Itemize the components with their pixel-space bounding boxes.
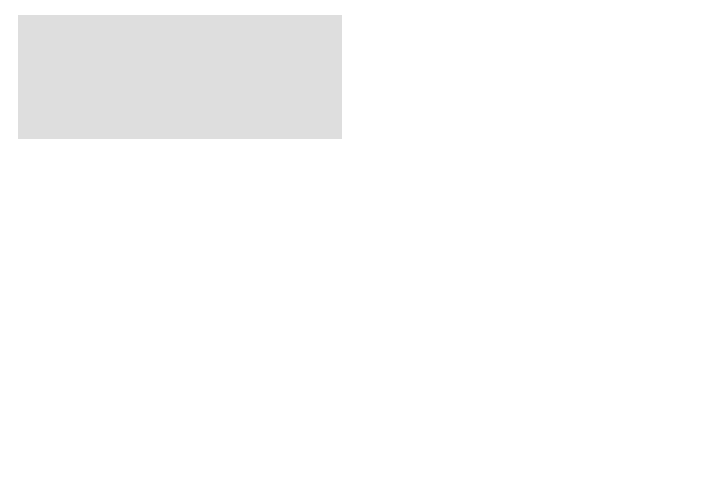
cortex-bg-l: [18, 15, 342, 139]
kidney-urea-recycling-diagram: [0, 0, 715, 478]
